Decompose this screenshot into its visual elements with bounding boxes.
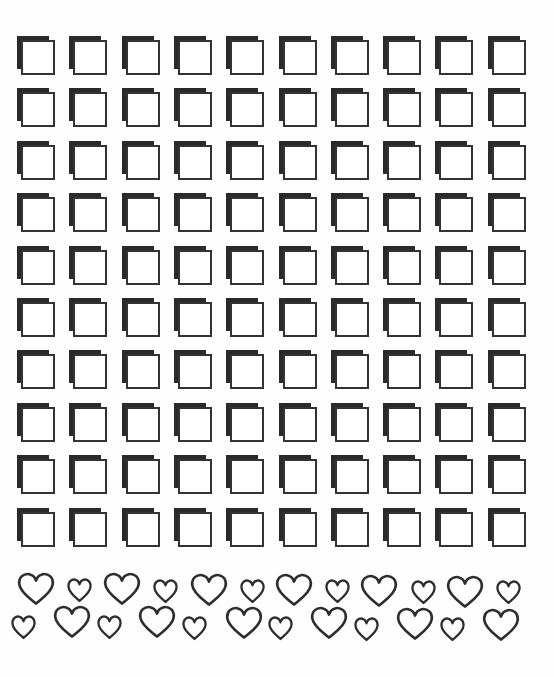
checkbox-square[interactable] xyxy=(122,36,160,75)
checkbox-square[interactable] xyxy=(226,193,264,232)
checkbox-square[interactable] xyxy=(174,246,212,285)
checkbox-square[interactable] xyxy=(226,141,264,180)
checkbox-square[interactable] xyxy=(174,193,212,232)
checkbox-square[interactable] xyxy=(17,508,55,547)
checkbox-square[interactable] xyxy=(226,403,264,442)
checkbox-square[interactable] xyxy=(383,141,421,180)
checkbox-square[interactable] xyxy=(122,193,160,232)
checkbox-square[interactable] xyxy=(435,246,473,285)
checkbox-square[interactable] xyxy=(331,508,369,547)
checkbox-square[interactable] xyxy=(122,246,160,285)
checkbox-square[interactable] xyxy=(69,403,107,442)
checkbox-square[interactable] xyxy=(174,508,212,547)
checkbox-square[interactable] xyxy=(69,455,107,494)
checkbox-square[interactable] xyxy=(488,246,526,285)
checkbox-square[interactable] xyxy=(383,246,421,285)
checkbox-square[interactable] xyxy=(435,88,473,127)
checkbox-square[interactable] xyxy=(488,350,526,389)
checkbox-square[interactable] xyxy=(279,350,317,389)
checkbox-square[interactable] xyxy=(17,141,55,180)
checkbox-square[interactable] xyxy=(226,88,264,127)
checkbox-square[interactable] xyxy=(122,508,160,547)
checkbox-square[interactable] xyxy=(69,88,107,127)
checkbox-square[interactable] xyxy=(331,246,369,285)
checkbox-square[interactable] xyxy=(122,141,160,180)
checkbox-square[interactable] xyxy=(226,298,264,337)
checkbox-square[interactable] xyxy=(174,36,212,75)
checkbox-square[interactable] xyxy=(331,298,369,337)
checkbox-square[interactable] xyxy=(435,508,473,547)
checkbox-square[interactable] xyxy=(435,455,473,494)
checkbox-square[interactable] xyxy=(435,298,473,337)
checkbox-square[interactable] xyxy=(331,193,369,232)
checkbox-square[interactable] xyxy=(226,36,264,75)
checkbox-square[interactable] xyxy=(435,36,473,75)
checkbox-square[interactable] xyxy=(122,88,160,127)
checkbox-square[interactable] xyxy=(279,36,317,75)
checkbox-square[interactable] xyxy=(435,350,473,389)
checkbox-square[interactable] xyxy=(174,298,212,337)
checkbox-square[interactable] xyxy=(17,246,55,285)
checkbox-square[interactable] xyxy=(122,298,160,337)
checkbox-square[interactable] xyxy=(488,298,526,337)
checkbox-square[interactable] xyxy=(331,350,369,389)
checkbox-square[interactable] xyxy=(279,508,317,547)
checkbox-square[interactable] xyxy=(435,141,473,180)
checkbox-square[interactable] xyxy=(383,403,421,442)
checkbox-square[interactable] xyxy=(69,141,107,180)
checkbox-square[interactable] xyxy=(331,455,369,494)
checkbox-square[interactable] xyxy=(435,193,473,232)
checkbox-square[interactable] xyxy=(17,403,55,442)
checkbox-square[interactable] xyxy=(383,455,421,494)
checkbox-square[interactable] xyxy=(488,193,526,232)
checkbox-square[interactable] xyxy=(226,455,264,494)
checkbox-square[interactable] xyxy=(488,88,526,127)
checkbox-square[interactable] xyxy=(331,88,369,127)
checkbox-square[interactable] xyxy=(279,455,317,494)
checkbox-square[interactable] xyxy=(331,36,369,75)
checkbox-square[interactable] xyxy=(488,141,526,180)
checkbox-square[interactable] xyxy=(174,88,212,127)
checkbox-square[interactable] xyxy=(279,141,317,180)
checkbox-square[interactable] xyxy=(226,246,264,285)
checkbox-square[interactable] xyxy=(122,350,160,389)
checkbox-square[interactable] xyxy=(383,298,421,337)
checkbox-square[interactable] xyxy=(17,350,55,389)
checkbox-square[interactable] xyxy=(17,36,55,75)
checkbox-square[interactable] xyxy=(174,141,212,180)
checkbox-square[interactable] xyxy=(488,508,526,547)
checkbox-square[interactable] xyxy=(488,455,526,494)
checkbox-square[interactable] xyxy=(69,298,107,337)
checkbox-square[interactable] xyxy=(174,350,212,389)
checkbox-square[interactable] xyxy=(383,36,421,75)
checkbox-square[interactable] xyxy=(174,455,212,494)
checkbox-square[interactable] xyxy=(17,193,55,232)
checkbox-square[interactable] xyxy=(17,455,55,494)
checkbox-square[interactable] xyxy=(331,141,369,180)
checkbox-square[interactable] xyxy=(69,193,107,232)
checkbox-square[interactable] xyxy=(279,88,317,127)
checkbox-square[interactable] xyxy=(69,36,107,75)
checkbox-square[interactable] xyxy=(488,403,526,442)
checkbox-square[interactable] xyxy=(279,193,317,232)
checkbox-square[interactable] xyxy=(122,403,160,442)
checkbox-square[interactable] xyxy=(226,508,264,547)
checkbox-square[interactable] xyxy=(435,403,473,442)
checkbox-square[interactable] xyxy=(17,298,55,337)
checkbox-square[interactable] xyxy=(383,350,421,389)
checkbox-square[interactable] xyxy=(226,350,264,389)
checkbox-square[interactable] xyxy=(279,403,317,442)
checkbox-square[interactable] xyxy=(383,193,421,232)
checkbox-square[interactable] xyxy=(69,350,107,389)
checkbox-square[interactable] xyxy=(383,508,421,547)
checkbox-square[interactable] xyxy=(383,88,421,127)
checkbox-square[interactable] xyxy=(279,246,317,285)
checkbox-square[interactable] xyxy=(174,403,212,442)
checkbox-square[interactable] xyxy=(17,88,55,127)
checkbox-square[interactable] xyxy=(488,36,526,75)
checkbox-square[interactable] xyxy=(331,403,369,442)
checkbox-square[interactable] xyxy=(122,455,160,494)
checkbox-square[interactable] xyxy=(69,246,107,285)
checkbox-square[interactable] xyxy=(279,298,317,337)
checkbox-square[interactable] xyxy=(69,508,107,547)
